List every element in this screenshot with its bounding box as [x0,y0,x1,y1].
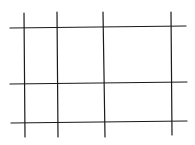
horizontal-line-2 [10,82,187,84]
vertical-line-3 [103,12,105,137]
grid-lines-drawing [0,0,195,145]
vertical-line-1 [24,13,25,137]
vertical-line-2 [57,12,58,137]
horizontal-line-3 [11,121,187,123]
vertical-line-4 [171,12,172,135]
grid-diagram [0,0,195,145]
horizontal-line-1 [10,26,186,28]
